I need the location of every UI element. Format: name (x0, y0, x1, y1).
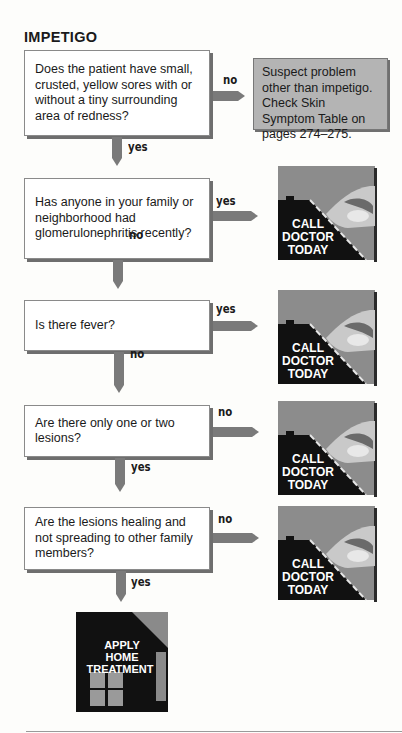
call-doctor-icon: CALL DOCTOR TODAY (278, 401, 377, 497)
svg-text:DOCTOR: DOCTOR (282, 465, 334, 479)
call-doctor-icon: CALL DOCTOR TODAY (278, 290, 377, 386)
svg-text:TODAY: TODAY (288, 583, 329, 597)
question-text: Does the patient have small, crusted, ye… (35, 62, 199, 124)
branch-label-yes: yes (131, 460, 151, 474)
svg-text:DOCTOR: DOCTOR (282, 230, 334, 244)
svg-text:DOCTOR: DOCTOR (282, 354, 334, 368)
branch-label-yes: yes (216, 194, 236, 208)
down-arrow-icon (114, 352, 124, 393)
question-text: Has anyone in your family or neighborhoo… (35, 195, 199, 242)
call-doctor-icon: CALL DOCTOR TODAY (278, 166, 377, 262)
svg-text:APPLY: APPLY (104, 639, 140, 651)
down-arrow-icon (112, 137, 122, 166)
svg-text:TODAY: TODAY (288, 243, 329, 257)
svg-text:CALL: CALL (292, 452, 324, 466)
svg-text:CALL: CALL (292, 217, 324, 231)
branch-label-no: no (130, 347, 144, 361)
branch-label-no: no (218, 512, 232, 526)
call-doctor-icon: CALL DOCTOR TODAY (278, 506, 377, 602)
right-arrow-icon (213, 321, 258, 331)
bottom-rule (26, 731, 402, 732)
svg-text:TODAY: TODAY (288, 367, 329, 381)
right-arrow-icon (213, 91, 245, 101)
question-box-2: Has anyone in your family or neighborhoo… (24, 178, 210, 259)
question-text: Is there fever? (35, 318, 115, 334)
branch-label-yes: yes (131, 575, 151, 589)
question-box-1: Does the patient have small, crusted, ye… (24, 50, 210, 136)
down-arrow-icon (113, 260, 123, 289)
branch-label-no: no (129, 228, 143, 242)
svg-text:CALL: CALL (292, 557, 324, 571)
question-box-4: Are there only one or two lesions? (24, 405, 210, 457)
question-box-3: Is there fever? (24, 300, 210, 351)
down-arrow-icon (116, 571, 126, 602)
question-text: Are there only one or two lesions? (35, 416, 199, 447)
branch-label-no: no (223, 73, 237, 87)
outcome-note: Suspect problem other than impetigo. Che… (253, 58, 388, 130)
home-treatment-icon: APPLY HOME TREATMENT (76, 612, 168, 712)
svg-text:TREATMENT: TREATMENT (86, 663, 153, 675)
page-title: IMPETIGO (24, 29, 97, 45)
svg-text:TODAY: TODAY (288, 478, 329, 492)
branch-label-no: no (218, 405, 232, 419)
right-arrow-icon (213, 533, 259, 543)
svg-text:HOME: HOME (106, 651, 139, 663)
right-arrow-icon (213, 211, 258, 221)
note-text: Suspect problem other than impetigo. Che… (262, 65, 373, 141)
question-box-5: Are the lesions healing and not spreadin… (24, 507, 210, 570)
svg-text:CALL: CALL (292, 341, 324, 355)
right-arrow-icon (213, 427, 259, 437)
branch-label-yes: yes (128, 140, 148, 154)
branch-label-yes: yes (216, 302, 236, 316)
down-arrow-icon (115, 458, 125, 492)
question-text: Are the lesions healing and not spreadin… (35, 515, 199, 562)
svg-text:DOCTOR: DOCTOR (282, 570, 334, 584)
